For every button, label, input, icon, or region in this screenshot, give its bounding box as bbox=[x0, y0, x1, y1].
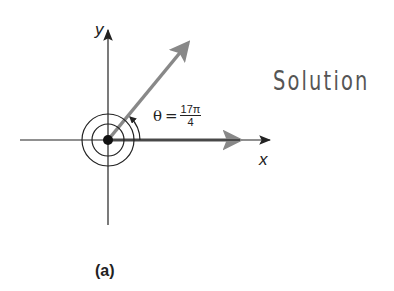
angle-denominator: 4 bbox=[187, 116, 193, 128]
y-axis-label: y bbox=[95, 20, 104, 40]
angle-diagram bbox=[0, 0, 394, 291]
figure-caption: (a) bbox=[95, 262, 115, 280]
angle-label: θ = 17π 4 bbox=[153, 103, 201, 128]
x-axis-label: x bbox=[259, 150, 268, 170]
equals-sign: = bbox=[165, 107, 178, 125]
angle-fraction: 17π 4 bbox=[180, 103, 202, 128]
theta-symbol: θ bbox=[153, 107, 162, 125]
origin-dot bbox=[103, 135, 113, 145]
solution-heading: Solution bbox=[273, 65, 369, 96]
angle-numerator: 17π bbox=[180, 103, 202, 116]
